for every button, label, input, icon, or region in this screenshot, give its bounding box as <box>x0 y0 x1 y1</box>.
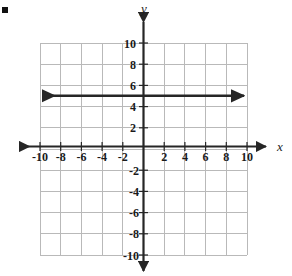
y-tick-label--10: -10 <box>123 249 139 263</box>
y-tick-label--6: -6 <box>129 206 139 220</box>
x-axis-label: x <box>276 139 283 154</box>
y-tick-label-8: 8 <box>130 58 136 72</box>
y-tick-label-10: 10 <box>124 37 136 51</box>
x-tick-label-4: 4 <box>182 150 188 164</box>
y-tick-label--4: -4 <box>129 185 139 199</box>
x-tick-label--6: -6 <box>76 150 86 164</box>
y-tick-label--2: -2 <box>129 164 139 178</box>
graph-page: -10 -8 -6 -4 -2 2 4 6 8 10 10 8 6 4 2 -2… <box>0 0 292 276</box>
x-tick-label--10: -10 <box>32 150 48 164</box>
x-tick-label-6: 6 <box>203 150 209 164</box>
y-tick-label-6: 6 <box>130 79 136 93</box>
coordinate-plane: -10 -8 -6 -4 -2 2 4 6 8 10 10 8 6 4 2 -2… <box>0 0 292 276</box>
y-tick-label--8: -8 <box>129 227 139 241</box>
x-tick-label-8: 8 <box>223 150 229 164</box>
x-tick-label--2: -2 <box>118 150 128 164</box>
x-tick-label-2: 2 <box>161 150 167 164</box>
y-axis-label: y <box>139 1 147 16</box>
x-tick-label--4: -4 <box>97 150 107 164</box>
y-tick-label-2: 2 <box>130 121 136 135</box>
x-tick-label-10: 10 <box>241 150 253 164</box>
y-tick-label-4: 4 <box>130 100 136 114</box>
x-tick-label--8: -8 <box>56 150 66 164</box>
